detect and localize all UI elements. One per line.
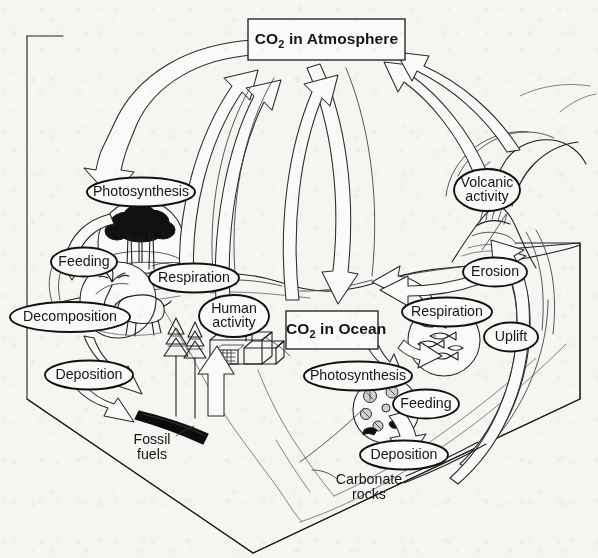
process-label-human-activity: Humanactivity bbox=[199, 301, 269, 330]
process-label-photosynthesis-ocean: Photosynthesis bbox=[304, 368, 412, 382]
arrow-fossil-to-human bbox=[198, 346, 234, 416]
process-label-photosynthesis-land: Photosynthesis bbox=[87, 184, 195, 198]
reservoir-label-co2-atmosphere: CO2 in Atmosphere bbox=[248, 30, 405, 50]
process-label-feeding-ocean: Feeding bbox=[393, 396, 459, 410]
diagram-canvas: .ln{fill:none;stroke:#1f1f24;stroke-widt… bbox=[0, 0, 598, 558]
conifer-tree-1 bbox=[164, 318, 188, 416]
scene-label-carbonate-rocks: Carbonaterocks bbox=[319, 472, 419, 502]
scene-label-fossil-fuels: Fossilfuels bbox=[102, 432, 202, 462]
process-label-erosion: Erosion bbox=[463, 264, 527, 278]
arrow-deposition-to-fossil bbox=[74, 385, 134, 422]
process-label-decomposition-land: Decomposition bbox=[10, 309, 130, 323]
reservoir-label-co2-ocean: CO2 in Ocean bbox=[286, 320, 378, 340]
process-label-respiration-land: Respiration bbox=[149, 270, 239, 284]
process-label-uplift: Uplift bbox=[484, 329, 538, 343]
process-label-deposition-land: Deposition bbox=[45, 367, 133, 381]
reservoir-boxes bbox=[248, 19, 405, 349]
conifer-trees bbox=[164, 318, 206, 418]
carbon-cycle-diagram: .ln{fill:none;stroke:#1f1f24;stroke-widt… bbox=[0, 0, 598, 558]
process-label-volcanic-activity: Volcanicactivity bbox=[454, 175, 520, 204]
process-label-respiration-ocean: Respiration bbox=[402, 304, 492, 318]
process-label-deposition-ocean: Deposition bbox=[360, 447, 448, 461]
process-label-feeding-land: Feeding bbox=[51, 254, 117, 268]
